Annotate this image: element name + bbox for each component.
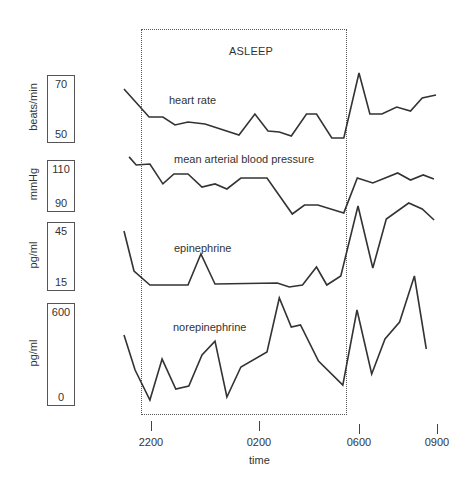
tick-label-0600: 0600 <box>339 436 379 448</box>
traces-plot <box>0 0 472 487</box>
norepinephrine-trace <box>124 276 426 400</box>
tick-0600 <box>359 424 360 434</box>
tick-label-0900: 0900 <box>417 436 457 448</box>
tick-0900 <box>437 424 438 434</box>
heart-rate-trace <box>124 73 436 138</box>
x-axis-title: time <box>249 454 270 466</box>
physiology-chart: 70 50 beats/min 110 90 mmHg 45 15 pg/ml … <box>0 0 472 487</box>
tick-0200 <box>259 421 260 431</box>
tick-label-2200: 2200 <box>131 436 171 448</box>
epinephrine-trace <box>124 203 434 287</box>
tick-label-0200: 0200 <box>239 436 279 448</box>
tick-2200 <box>151 421 152 431</box>
map-trace <box>129 157 434 214</box>
